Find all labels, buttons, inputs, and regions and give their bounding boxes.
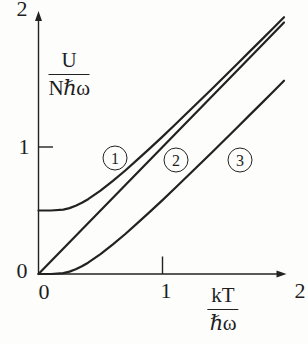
x-tick-label-2: 2 bbox=[295, 280, 306, 302]
y-tick-label-2: 2 bbox=[17, 0, 28, 20]
curve-1 bbox=[39, 17, 285, 210]
x-axis-label-denominator: ℏω bbox=[207, 310, 238, 335]
y-axis-label-denominator: Nℏω bbox=[48, 75, 89, 100]
oscillator-energy-figure: 2 1 0 0 1 2 U Nℏω kT ℏω 1 2 3 bbox=[0, 0, 308, 344]
x-axis-arrow-icon bbox=[277, 271, 287, 278]
curve-3 bbox=[39, 81, 285, 274]
curve-3-badge: 3 bbox=[228, 148, 253, 173]
x-tick-label-1: 1 bbox=[161, 280, 172, 302]
y-axis-label-numerator: U bbox=[48, 49, 89, 75]
x-axis-label-fraction: kT ℏω bbox=[207, 284, 238, 335]
curve-2-badge: 2 bbox=[164, 148, 189, 173]
y-axis-label-fraction: U Nℏω bbox=[48, 49, 89, 100]
curve-1-badge: 1 bbox=[103, 146, 128, 171]
y-tick-label-1: 1 bbox=[19, 136, 30, 158]
x-tick-label-0: 0 bbox=[39, 281, 50, 303]
y-axis-arrow-icon bbox=[35, 11, 42, 21]
x-axis-label-numerator: kT bbox=[207, 284, 238, 310]
y-tick-label-0: 0 bbox=[17, 260, 28, 282]
